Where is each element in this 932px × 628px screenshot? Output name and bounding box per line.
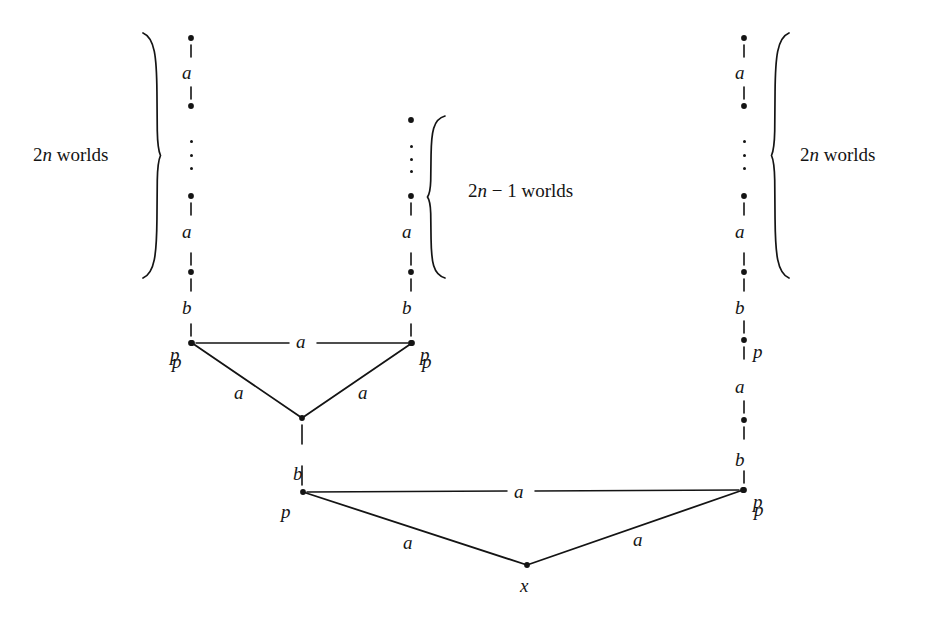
middle-node-2 <box>408 269 414 275</box>
left-brace-label: 2n worlds <box>33 145 108 164</box>
right-node-1 <box>741 103 747 109</box>
right-node-label-4: p <box>753 342 763 361</box>
left-brace <box>143 33 161 278</box>
brace-layer <box>143 33 789 278</box>
right-node-4 <box>741 337 747 343</box>
middle-node-1 <box>408 193 414 199</box>
right-edge-label-1: a <box>735 222 745 241</box>
right-vertical-ellipsis <box>742 140 746 170</box>
right-brace-label-suffix: worlds <box>819 144 875 165</box>
middle-edge-label-0: a <box>402 222 412 241</box>
left-edge-label-1: a <box>182 222 192 241</box>
left-node-0 <box>188 35 194 41</box>
right-node-3 <box>741 269 747 275</box>
lower-left-edge-label: a <box>403 533 413 552</box>
node-layer <box>189 340 746 568</box>
left-node-2 <box>188 193 194 199</box>
lower-top-edge-part1 <box>307 491 507 492</box>
right-brace-label: 2n worlds <box>800 145 875 164</box>
left-edge-label-0: a <box>182 63 192 82</box>
left-brace-label-suffix: worlds <box>52 144 108 165</box>
right-node-0 <box>741 35 747 41</box>
right-edge-label-4: b <box>735 450 745 469</box>
lower-top-edge-part2 <box>535 490 739 491</box>
middle-brace-label: 2n − 1 worlds <box>468 181 573 200</box>
right-node-5 <box>741 417 747 423</box>
left-node-1 <box>188 103 194 109</box>
upper-left-p <box>189 340 195 346</box>
right-edge-label-2: b <box>735 298 745 317</box>
right-brace <box>772 33 790 278</box>
middle-brace-label-suffix: − 1 worlds <box>487 180 573 201</box>
upper-apex <box>299 415 305 421</box>
middle-brace-label-variable: n <box>478 180 488 201</box>
apex-to-lower-p-label: b <box>293 464 303 483</box>
upper-right-p <box>409 340 415 346</box>
lower-left-p-label: p <box>281 502 291 521</box>
upper-left-edge <box>192 343 302 418</box>
left-brace-label-variable: n <box>43 144 53 165</box>
upper-right-edge-label: a <box>358 383 368 402</box>
bottom-x-label: x <box>520 576 528 595</box>
middle-brace-label-prefix: 2 <box>468 180 478 201</box>
lower-top-edge-label: a <box>514 482 524 501</box>
middle-node-0 <box>408 117 414 123</box>
right-node-2 <box>741 193 747 199</box>
upper-left-p-label: p <box>172 352 182 371</box>
upper-right-edge <box>302 343 412 418</box>
kripke-model-figure: paabpabppaabab2n worlds2n − 1 worlds2n w… <box>0 0 932 628</box>
lower-right-edge <box>527 490 743 565</box>
right-edge-label-3: a <box>735 377 745 396</box>
lower-right-edge-label: a <box>633 530 643 549</box>
chain-layer <box>188 35 747 493</box>
middle-brace <box>428 116 446 278</box>
lower-left-edge <box>303 492 527 565</box>
lower-right-p <box>740 487 746 493</box>
edge-layer <box>192 343 743 565</box>
upper-top-edge-label: a <box>296 332 306 351</box>
left-edge-label-2: b <box>182 298 192 317</box>
right-brace-label-variable: n <box>810 144 820 165</box>
diagram-canvas <box>0 0 932 628</box>
left-brace-label-prefix: 2 <box>33 144 43 165</box>
middle-vertical-ellipsis <box>409 145 413 173</box>
lower-right-p-label: p <box>754 500 764 519</box>
upper-right-p-label: p <box>422 352 432 371</box>
left-vertical-ellipsis <box>189 140 193 170</box>
bottom-x <box>524 562 530 568</box>
upper-left-edge-label: a <box>234 383 244 402</box>
lower-left-p <box>300 489 306 495</box>
left-node-3 <box>188 269 194 275</box>
right-edge-label-0: a <box>735 63 745 82</box>
middle-edge-label-1: b <box>402 298 412 317</box>
right-brace-label-prefix: 2 <box>800 144 810 165</box>
